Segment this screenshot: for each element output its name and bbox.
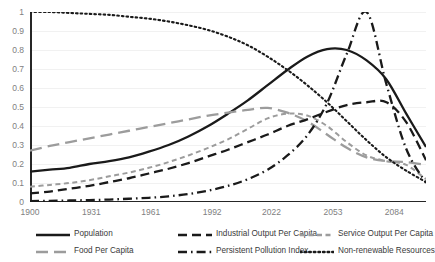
y-axis-tick-label: 0 bbox=[0, 198, 24, 207]
y-axis-tick-label: 0.1 bbox=[0, 179, 24, 188]
legend-item-label: Persistent Pollution Index bbox=[216, 247, 308, 255]
y-axis-tick-label: 0.4 bbox=[0, 122, 24, 131]
legend-item-label: Food Per Capita bbox=[74, 247, 134, 255]
legend-item[interactable]: Persistent Pollution Index bbox=[178, 245, 308, 258]
x-axis-tick-label: 2053 bbox=[313, 208, 353, 217]
legend-line-dot-black-icon bbox=[300, 247, 334, 257]
legend-line-short-dash-gray-icon bbox=[300, 230, 334, 240]
legend-item[interactable]: Non-renewable Resources bbox=[300, 245, 435, 258]
y-axis-tick-label: 1 bbox=[0, 8, 24, 17]
series-line bbox=[30, 108, 426, 165]
x-axis-tick-label: 1900 bbox=[10, 208, 50, 217]
series-line bbox=[30, 48, 426, 171]
legend-item[interactable]: Service Output Per Capita bbox=[300, 228, 433, 241]
y-axis-tick-label: 0.2 bbox=[0, 160, 24, 169]
legend-line-dash-black-icon bbox=[178, 230, 212, 240]
y-axis-tick-label: 0.5 bbox=[0, 103, 24, 112]
legend-item[interactable]: Industrial Output Per Capita bbox=[178, 228, 317, 241]
legend-line-long-dash-gray-icon bbox=[36, 247, 70, 257]
legend-item-label: Non-renewable Resources bbox=[338, 247, 435, 255]
chart-legend: PopulationIndustrial Output Per CapitaSe… bbox=[0, 228, 434, 262]
legend-line-dash-dot-black-icon bbox=[178, 247, 212, 257]
y-axis-tick-label: 0.7 bbox=[0, 65, 24, 74]
series-line bbox=[30, 12, 426, 201]
x-axis-tick-label: 2084 bbox=[374, 208, 414, 217]
y-axis-tick-label: 0.8 bbox=[0, 46, 24, 55]
x-axis-tick-label: 1961 bbox=[131, 208, 171, 217]
y-axis-tick-label: 0.3 bbox=[0, 141, 24, 150]
y-axis-tick-label: 0.9 bbox=[0, 27, 24, 36]
legend-item[interactable]: Population bbox=[36, 228, 113, 241]
legend-item[interactable]: Food Per Capita bbox=[36, 245, 134, 258]
legend-line-solid-black-icon bbox=[36, 230, 70, 240]
y-axis-tick-label: 0.6 bbox=[0, 84, 24, 93]
series-layer bbox=[30, 12, 426, 202]
legend-item-label: Population bbox=[74, 230, 113, 238]
legend-item-label: Service Output Per Capita bbox=[338, 230, 433, 238]
x-axis-tick-label: 1992 bbox=[192, 208, 232, 217]
x-axis-tick-label: 1931 bbox=[71, 208, 111, 217]
x-axis-tick-label: 2022 bbox=[252, 208, 292, 217]
